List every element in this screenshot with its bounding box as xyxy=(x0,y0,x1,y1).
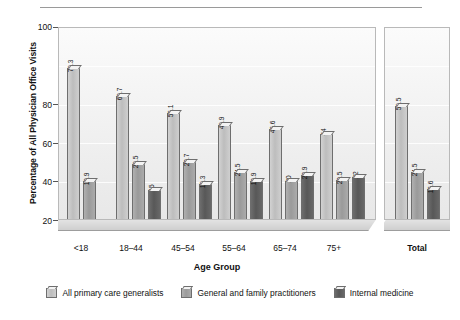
bar-all-primary-care-generalists[interactable]: 44 xyxy=(320,134,333,219)
bar-all-primary-care-generalists[interactable]: 63.7 xyxy=(116,96,129,219)
bar-value-label: 46.6 xyxy=(269,121,276,133)
legend-label: Internal medicine xyxy=(350,288,414,298)
bar-internal-medicine[interactable]: 22.9 xyxy=(301,175,314,219)
bar-value-label: 55.1 xyxy=(167,105,174,117)
gridline-60 xyxy=(59,105,375,106)
bar-value-label: 58.5 xyxy=(395,98,402,110)
bar-general-and-family-practitioners[interactable]: 20.5 xyxy=(336,180,349,219)
bar-internal-medicine[interactable]: 18.3 xyxy=(199,184,212,219)
bar-wrap: 24.5 xyxy=(411,172,424,219)
legend-swatch-icon xyxy=(46,288,57,298)
bar-wrap: 18.3 xyxy=(199,184,212,219)
y-axis-tick-20: 20 xyxy=(24,216,52,226)
bar-internal-medicine[interactable]: 15.6 xyxy=(427,189,440,219)
bar-internal-medicine[interactable]: 22 xyxy=(352,177,365,219)
plot-area-main: 78.3 19.9 63.7 28.5 xyxy=(58,27,376,220)
bar-value-label: 19.9 xyxy=(83,173,90,185)
axis-floor-main xyxy=(58,220,376,231)
gridline-80 xyxy=(385,66,449,67)
bar-wrap: 22 xyxy=(352,177,365,219)
x-axis-tick-18-44: 18–44 xyxy=(106,243,156,253)
bar-wrap: 63.7 xyxy=(116,96,129,219)
legend-swatch-icon xyxy=(181,288,192,298)
chart-legend: All primary care generalists General and… xyxy=(0,288,460,298)
legend-swatch-icon xyxy=(334,288,345,298)
bar-general-and-family-practitioners[interactable]: 24.5 xyxy=(234,172,247,219)
bar-all-primary-care-generalists[interactable]: 46.6 xyxy=(269,129,282,219)
chart-figure: Percentage of All Physician Office Visit… xyxy=(0,0,460,320)
bar-wrap: 19.9 xyxy=(250,181,263,219)
bar-internal-medicine[interactable]: 15 xyxy=(148,190,161,219)
bar-value-label: 15 xyxy=(148,184,155,191)
x-axis-tick-65-74: 65–74 xyxy=(260,243,310,253)
bar-value-label: 29.7 xyxy=(183,154,190,166)
bar-general-and-family-practitioners[interactable]: 28.5 xyxy=(132,164,145,219)
bar-general-and-family-practitioners[interactable]: 20 xyxy=(285,181,298,219)
x-axis-tick-45-54: 45–54 xyxy=(158,243,208,253)
legend-label: General and family practitioners xyxy=(197,288,315,298)
legend-label: All primary care generalists xyxy=(62,288,163,298)
bar-wrap: 20.5 xyxy=(336,180,349,219)
bar-wrap: 48.9 xyxy=(218,125,231,219)
bar-group-75-plus: 44 20.5 22 xyxy=(320,134,365,219)
bar-wrap: 15.6 xyxy=(427,189,440,219)
bar-wrap: 55.1 xyxy=(167,113,180,219)
plot-area-total: 58.5 24.5 15.6 xyxy=(384,27,450,220)
bar-wrap: 46.6 xyxy=(269,129,282,219)
bar-value-label: 63.7 xyxy=(116,88,123,100)
bar-all-primary-care-generalists[interactable]: 48.9 xyxy=(218,125,231,219)
bar-value-label: 22.9 xyxy=(301,167,308,179)
bar-all-primary-care-generalists[interactable]: 55.1 xyxy=(167,113,180,219)
y-axis-tick-40: 40 xyxy=(24,177,52,187)
y-axis-title: Percentage of All Physician Office Visit… xyxy=(28,8,38,238)
bar-group-under-18: 78.3 19.9 xyxy=(67,68,96,219)
bar-value-label: 48.9 xyxy=(218,117,225,129)
x-axis-tick-75-plus: 75+ xyxy=(311,243,357,253)
bar-wrap: 28.5 xyxy=(132,164,145,219)
x-axis-tick-total: Total xyxy=(384,243,450,253)
x-axis-tick-under-18: <18 xyxy=(58,243,104,253)
bar-wrap: 58.5 xyxy=(395,106,408,219)
bar-wrap: 20 xyxy=(285,181,298,219)
y-axis-tick-100: 100 xyxy=(24,22,52,32)
bar-value-label: 15.6 xyxy=(427,181,434,193)
bar-all-primary-care-generalists[interactable]: 58.5 xyxy=(395,106,408,219)
axis-floor-total xyxy=(384,220,450,231)
bar-group-total: 58.5 24.5 15.6 xyxy=(395,106,440,219)
bar-value-label: 44 xyxy=(320,128,327,135)
bar-wrap: 22.9 xyxy=(301,175,314,219)
bar-all-primary-care-generalists[interactable]: 78.3 xyxy=(67,68,80,219)
bar-group-45-54: 55.1 29.7 18.3 xyxy=(167,113,212,219)
x-axis-tick-55-64: 55–64 xyxy=(209,243,259,253)
legend-item-internal-medicine[interactable]: Internal medicine xyxy=(334,288,414,298)
bar-general-and-family-practitioners[interactable]: 19.9 xyxy=(83,181,96,219)
top-divider xyxy=(40,7,422,8)
bar-wrap: 44 xyxy=(320,134,333,219)
y-axis-tick-80: 80 xyxy=(24,100,52,110)
bar-wrap: 15 xyxy=(148,190,161,219)
x-axis-title: Age Group xyxy=(58,262,376,272)
bar-general-and-family-practitioners[interactable]: 29.7 xyxy=(183,162,196,219)
bar-value-label: 24.5 xyxy=(234,164,241,176)
bar-group-55-64: 48.9 24.5 19.9 xyxy=(218,125,263,219)
bar-general-and-family-practitioners[interactable]: 24.5 xyxy=(411,172,424,219)
bar-group-18-44: 63.7 28.5 15 xyxy=(116,96,161,219)
bar-value-label: 78.3 xyxy=(67,60,74,72)
bar-wrap: 19.9 xyxy=(83,181,96,219)
bar-wrap: 29.7 xyxy=(183,162,196,219)
y-axis-tick-60: 60 xyxy=(24,139,52,149)
bar-wrap: 78.3 xyxy=(67,68,80,219)
bar-value-label: 20 xyxy=(285,175,292,182)
bar-value-label: 22 xyxy=(352,171,359,178)
bar-value-label: 24.5 xyxy=(411,164,418,176)
bar-wrap: 24.5 xyxy=(234,172,247,219)
bar-value-label: 18.3 xyxy=(199,176,206,188)
bar-group-65-74: 46.6 20 22.9 xyxy=(269,129,314,219)
legend-item-all-primary-care-generalists[interactable]: All primary care generalists xyxy=(46,288,163,298)
legend-item-general-and-family-practitioners[interactable]: General and family practitioners xyxy=(181,288,315,298)
bar-value-label: 28.5 xyxy=(132,156,139,168)
bar-internal-medicine[interactable]: 19.9 xyxy=(250,181,263,219)
gridline-80 xyxy=(59,66,375,67)
bar-value-label: 19.9 xyxy=(250,173,257,185)
bar-value-label: 20.5 xyxy=(336,172,343,184)
